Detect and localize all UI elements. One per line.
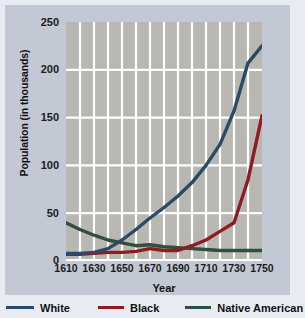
legend-item-white: White [6,302,70,314]
y-tick-250: 250 [19,17,59,28]
plot-area [66,22,262,261]
y-tick-100: 100 [19,160,59,171]
legend-swatch-white [6,306,34,309]
legend-label-native-american: Native American [217,302,303,314]
chart-card: Population (in thousands) 250 200 150 10… [5,5,290,295]
y-tick-150: 150 [19,112,59,123]
legend-swatch-native-american [185,306,211,309]
legend-item-black: Black [98,302,159,314]
legend-label-white: White [40,302,70,314]
y-tick-50: 50 [19,208,59,219]
legend-swatch-black [98,306,124,309]
population-line-chart: Population (in thousands) 250 200 150 10… [5,5,290,295]
x-tick-1750: 1750 [245,263,279,274]
y-tick-200: 200 [19,64,59,75]
legend-item-native-american: Native American [185,302,303,314]
legend-label-black: Black [130,302,159,314]
x-axis-title: Year [66,282,262,294]
series-canvas [66,22,262,261]
chart-legend: White Black Native American [0,297,305,318]
